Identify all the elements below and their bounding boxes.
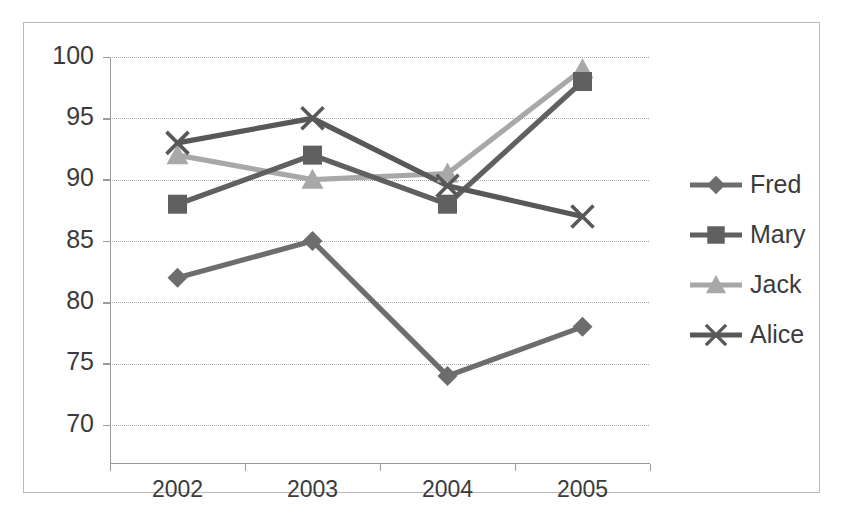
x-axis-tick-label: 2005	[557, 476, 608, 502]
y-axis-tick-label: 85	[66, 225, 94, 253]
series-line-mary	[178, 82, 583, 205]
legend-item-fred[interactable]: Fred	[690, 170, 801, 198]
square-marker-icon	[438, 195, 457, 214]
series-markers-mary	[168, 72, 592, 214]
series-markers-jack	[167, 58, 594, 188]
legend-item-label: Jack	[750, 270, 802, 298]
y-axis-tick-label: 90	[66, 163, 94, 191]
square-marker-icon	[168, 195, 187, 214]
chart-legend: FredMaryJackAlice	[690, 170, 806, 348]
x-axis-tick-label: 2002	[152, 476, 203, 502]
chart-plot-area: 100959085807570 2002200320042005 FredMar…	[0, 0, 849, 518]
series-mary	[178, 82, 583, 205]
series-line-fred	[178, 241, 583, 376]
series-jack	[178, 69, 583, 179]
square-marker-icon	[573, 72, 592, 91]
square-marker-icon	[707, 226, 724, 243]
y-axis-tick-label: 70	[66, 409, 94, 437]
x-axis-tick-labels: 2002200320042005	[152, 476, 608, 502]
legend-item-alice[interactable]: Alice	[690, 320, 804, 348]
legend-item-label: Fred	[750, 170, 801, 198]
legend-item-jack[interactable]: Jack	[690, 270, 802, 298]
y-axis-tick-label: 75	[66, 347, 94, 375]
series-fred	[178, 241, 583, 376]
y-axis-tick-label: 95	[66, 102, 94, 130]
data-series-group	[167, 58, 594, 386]
square-marker-icon	[303, 146, 322, 165]
y-axis-tick-label: 80	[66, 286, 94, 314]
legend-item-label: Mary	[750, 220, 806, 248]
y-axis-tick-labels: 100959085807570	[52, 41, 94, 437]
diamond-marker-icon	[707, 176, 725, 194]
gridlines	[110, 58, 650, 426]
legend-item-label: Alice	[750, 320, 804, 348]
legend-item-mary[interactable]: Mary	[690, 220, 806, 248]
chart-container: 100959085807570 2002200320042005 FredMar…	[0, 0, 849, 518]
x-axis-tick-label: 2004	[422, 476, 473, 502]
series-line-jack	[178, 69, 583, 179]
x-axis-tick-label: 2003	[287, 476, 338, 502]
diamond-marker-icon	[573, 317, 593, 337]
diamond-marker-icon	[168, 268, 188, 288]
y-axis-tick-label: 100	[52, 41, 94, 69]
